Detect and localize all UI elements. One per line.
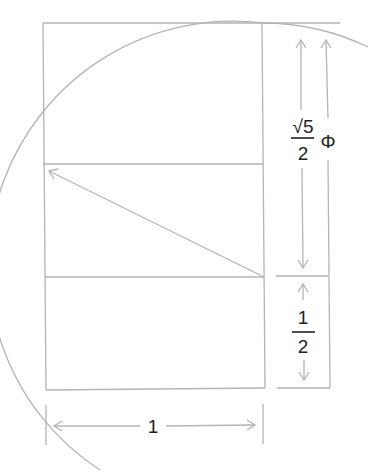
sqrt5-numerator: √5 bbox=[293, 116, 314, 137]
half-denominator: 2 bbox=[298, 336, 309, 357]
sqrt5-dim-bottom bbox=[302, 168, 303, 268]
unit-dim-right bbox=[166, 425, 255, 426]
unit-width-label: 1 bbox=[148, 416, 159, 437]
diagonal-arrowhead-icon bbox=[49, 169, 58, 179]
bottom-edge bbox=[46, 388, 265, 390]
golden-ratio-diagram: √5 2 Φ 1 2 1 bbox=[0, 0, 384, 475]
arc-top bbox=[262, 23, 368, 47]
diagonal-line bbox=[49, 171, 264, 277]
right-edge bbox=[262, 23, 265, 388]
phi-dim-top bbox=[326, 40, 328, 118]
phi-dim-bottom bbox=[328, 160, 330, 388]
sqrt5-denominator: 2 bbox=[298, 143, 309, 164]
half-numerator: 1 bbox=[298, 307, 309, 328]
left-edge bbox=[43, 23, 46, 390]
phi-label: Φ bbox=[320, 131, 335, 152]
arc-main bbox=[0, 21, 262, 470]
